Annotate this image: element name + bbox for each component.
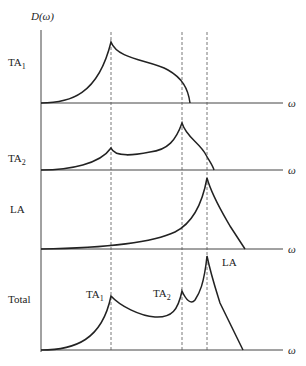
- annotation-la: LA: [222, 256, 237, 268]
- omega-label-1: ω: [288, 97, 296, 109]
- curve-ta1: [41, 42, 190, 103]
- omega-label-2: ω: [288, 164, 296, 176]
- annotation-ta1: TA1: [86, 288, 104, 303]
- omega-label-4: ω: [288, 344, 296, 356]
- panel-label-ta1: TA1: [8, 56, 26, 71]
- curve-total: [41, 256, 243, 350]
- y-axis-label: D(ω): [30, 10, 54, 23]
- omega-label-3: ω: [288, 243, 296, 255]
- curve-ta2: [41, 123, 214, 170]
- panel-label-total: Total: [8, 293, 30, 305]
- panel-label-la: LA: [10, 203, 25, 215]
- annotation-ta2: TA2: [153, 287, 171, 302]
- panel-label-ta2: TA2: [8, 152, 26, 167]
- dos-figure: D(ω) ω ω ω ω TA1 TA2 LA Total TA1 TA2 LA: [0, 0, 306, 366]
- curve-la: [41, 178, 245, 249]
